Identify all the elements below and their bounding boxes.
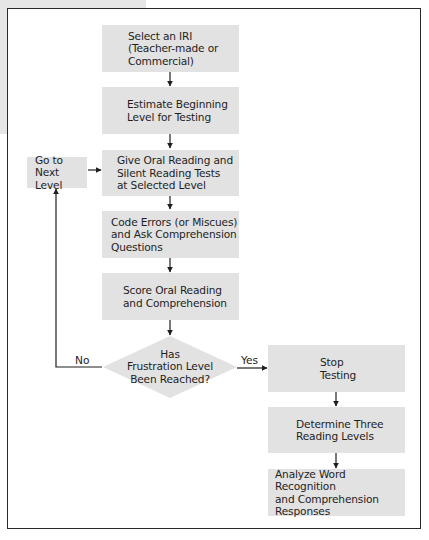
- node-code-errors: Code Errors (or Miscues) and Ask Compreh…: [102, 211, 239, 258]
- node-determine-levels-label: Determine Three Reading Levels: [296, 418, 383, 443]
- arrow-decision-no-to-next-level: [56, 189, 102, 367]
- node-score: Score Oral Reading and Comprehension: [102, 273, 239, 320]
- node-stop-testing-label: Stop Testing: [320, 356, 356, 381]
- node-next-level: Go to Next Level: [27, 157, 87, 188]
- edge-label-yes: Yes: [241, 354, 258, 366]
- node-estimate-level-label: Estimate Beginning Level for Testing: [127, 98, 228, 123]
- node-decision-label: Has Frustration Level Been Reached?: [118, 348, 222, 385]
- node-code-errors-label: Code Errors (or Miscues) and Ask Compreh…: [111, 216, 237, 253]
- node-select-iri: Select an IRI (Teacher-made or Commercia…: [102, 25, 239, 72]
- node-give-tests: Give Oral Reading and Silent Reading Tes…: [102, 150, 239, 196]
- node-estimate-level: Estimate Beginning Level for Testing: [102, 87, 239, 134]
- node-next-level-label: Go to Next Level: [35, 154, 87, 191]
- connector-lines: [0, 0, 429, 540]
- node-analyze-label: Analyze Word Recognition and Comprehensi…: [275, 468, 405, 518]
- edge-label-no: No: [75, 354, 89, 366]
- node-stop-testing: Stop Testing: [268, 345, 405, 392]
- node-score-label: Score Oral Reading and Comprehension: [123, 284, 227, 309]
- node-analyze: Analyze Word Recognition and Comprehensi…: [268, 469, 405, 516]
- node-give-tests-label: Give Oral Reading and Silent Reading Tes…: [117, 154, 233, 191]
- node-determine-levels: Determine Three Reading Levels: [268, 407, 405, 453]
- node-select-iri-label: Select an IRI (Teacher-made or Commercia…: [128, 30, 218, 67]
